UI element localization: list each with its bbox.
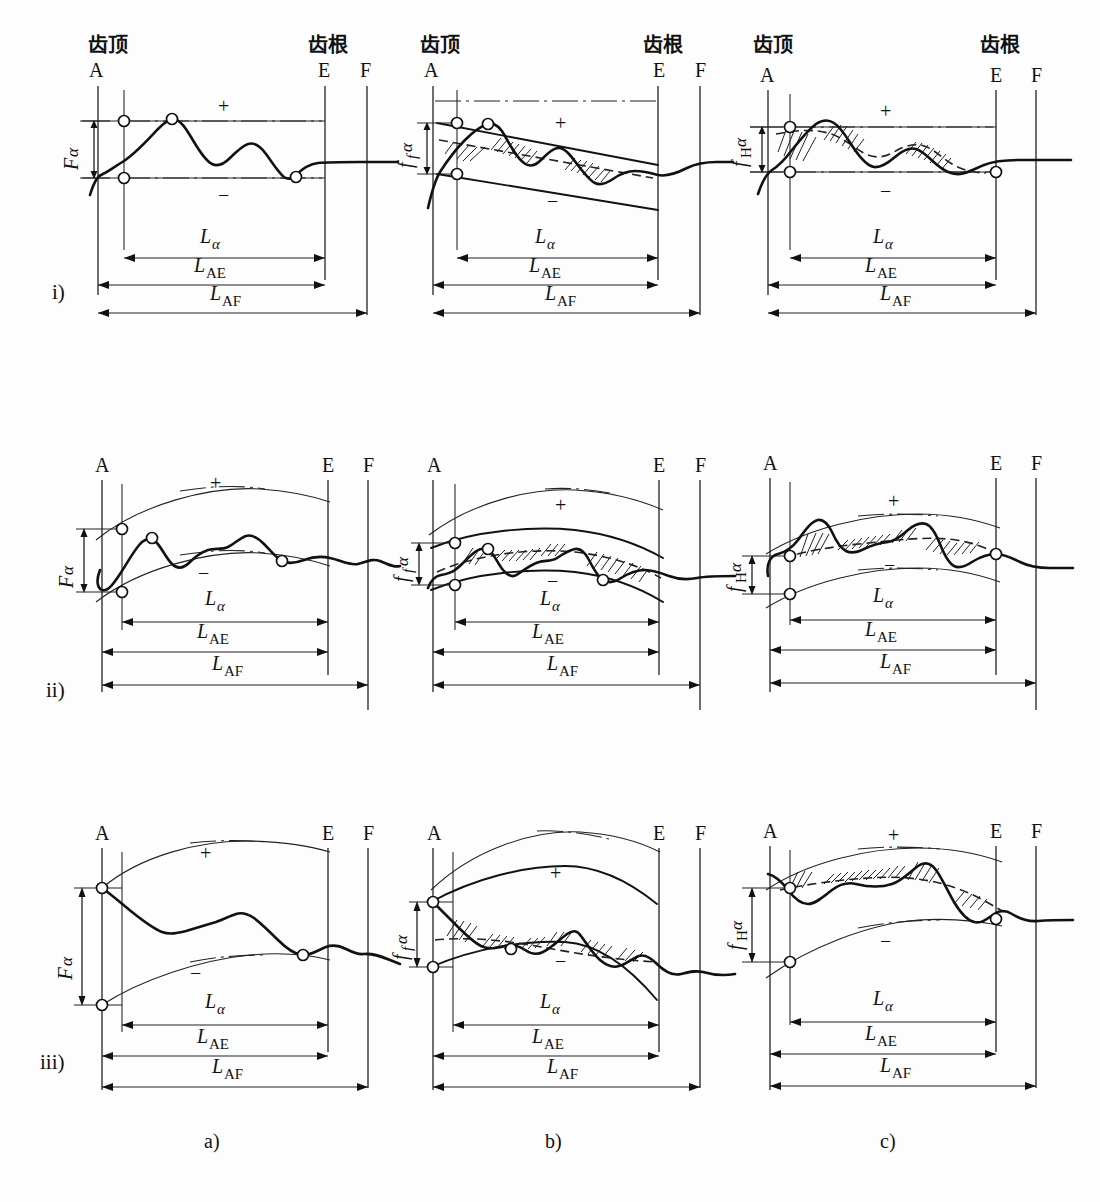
panel-iii-b: A E F + − f f α (395, 800, 735, 1100)
deviation-label-fHalpha: f H α (728, 137, 754, 167)
svg-text:AF: AF (559, 663, 578, 679)
node-valley (291, 172, 302, 183)
svg-text:AF: AF (892, 1065, 911, 1081)
sign-minus: − (555, 950, 566, 972)
dim-LAF: L AF (433, 1055, 700, 1091)
dim-LAF: L AF (768, 282, 1036, 317)
dim-LAF: L AF (433, 652, 700, 689)
label-point-A: A (763, 820, 778, 842)
dim-Lalpha: L α (453, 990, 659, 1029)
svg-text:α: α (217, 1001, 226, 1017)
svg-text:L: L (211, 1055, 223, 1077)
dim-LAF: L AF (433, 282, 700, 317)
label-tooth-root: 齿根 (980, 33, 1020, 57)
svg-text:L: L (864, 618, 876, 640)
label-point-E: E (322, 454, 334, 476)
panel-iii-a: A E F + − F α L α (60, 800, 400, 1100)
node-lower-left (428, 962, 439, 973)
node-lower-left (117, 587, 128, 598)
node-right (991, 167, 1002, 178)
node-upper-left (97, 883, 108, 894)
svg-text:L: L (864, 254, 876, 276)
node-right (991, 914, 1002, 925)
measured-trace (102, 888, 400, 964)
node-upper-left (119, 116, 130, 127)
svg-text:L: L (879, 1054, 891, 1076)
label-point-F: F (695, 59, 706, 81)
dim-LAE: L AE (102, 620, 328, 656)
design-curve-outer (431, 832, 660, 890)
svg-text:f: f (728, 159, 751, 167)
svg-text:f: f (400, 567, 416, 573)
svg-text:L: L (539, 990, 551, 1012)
node-lower-left (785, 957, 796, 968)
node-upper-left (785, 883, 796, 894)
label-point-A: A (424, 59, 439, 81)
svg-text:L: L (546, 1055, 558, 1077)
node-right (277, 556, 288, 567)
svg-text:AE: AE (209, 631, 229, 647)
sign-plus: + (218, 95, 229, 117)
svg-text:AF: AF (224, 663, 243, 679)
svg-text:L: L (546, 652, 558, 674)
svg-text:f: f (724, 942, 747, 950)
svg-text:f: f (394, 160, 417, 168)
design-curve-upper (431, 866, 657, 904)
svg-text:α: α (731, 137, 750, 147)
label-point-A: A (95, 822, 110, 844)
svg-text:AE: AE (877, 265, 897, 281)
label-point-F: F (1031, 452, 1042, 474)
dim-Lalpha: L α (455, 587, 659, 626)
svg-text:L: L (534, 225, 546, 247)
dim-Lalpha: L α (122, 990, 328, 1029)
node-lower-left (785, 167, 796, 178)
label-point-A: A (763, 452, 778, 474)
label-point-E: E (990, 64, 1002, 86)
label-tooth-root: 齿根 (643, 33, 683, 57)
label-point-F: F (1031, 820, 1042, 842)
label-point-F: F (363, 822, 374, 844)
sign-plus: + (888, 824, 899, 846)
svg-text:L: L (528, 254, 540, 276)
svg-text:L: L (872, 987, 884, 1009)
label-point-F: F (360, 59, 371, 81)
label-point-E: E (322, 822, 334, 844)
svg-text:F: F (53, 967, 77, 981)
svg-text:L: L (196, 620, 208, 642)
svg-text:α: α (63, 147, 82, 157)
node-lower-left (450, 580, 461, 591)
label-tooth-tip: 齿顶 (420, 33, 460, 57)
svg-text:L: L (531, 1025, 543, 1047)
svg-text:L: L (196, 1025, 208, 1047)
node-peak (483, 119, 494, 130)
svg-text:AE: AE (877, 1033, 897, 1049)
col-label-a: a) (204, 1130, 220, 1153)
node-right (991, 549, 1002, 560)
panel-i-c: 齿顶 齿根 A E F + − f H α (728, 30, 1073, 320)
sign-minus: − (880, 180, 891, 202)
dim-LAE: L AE (433, 1025, 659, 1060)
svg-text:L: L (209, 282, 221, 304)
svg-text:L: L (539, 587, 551, 609)
deviation-label-Falpha: F α (60, 147, 82, 171)
svg-text:α: α (727, 920, 746, 930)
measured-trace (90, 119, 398, 195)
mean-profile-upper (437, 123, 658, 165)
svg-text:α: α (885, 236, 894, 252)
svg-text:AE: AE (209, 1036, 229, 1052)
figure-sheet: i) ii) iii) a) b) c) 齿顶 齿根 A E F + − F (0, 0, 1100, 1202)
svg-text:AE: AE (544, 1036, 564, 1052)
svg-text:L: L (864, 1022, 876, 1044)
panel-iii-c: A E F + − f H α (728, 800, 1073, 1100)
dim-Lalpha: L α (790, 584, 996, 624)
design-curve-upper (431, 529, 663, 558)
deviation-label-Falpha: F α (53, 956, 77, 981)
label-point-E: E (990, 452, 1002, 474)
dim-Lalpha: L α (790, 987, 996, 1026)
node-valley (598, 575, 609, 586)
svg-text:AF: AF (892, 293, 911, 309)
svg-text:L: L (872, 584, 884, 606)
svg-text:L: L (544, 282, 556, 304)
svg-text:α: α (392, 934, 411, 944)
centerline-lower (858, 920, 940, 928)
